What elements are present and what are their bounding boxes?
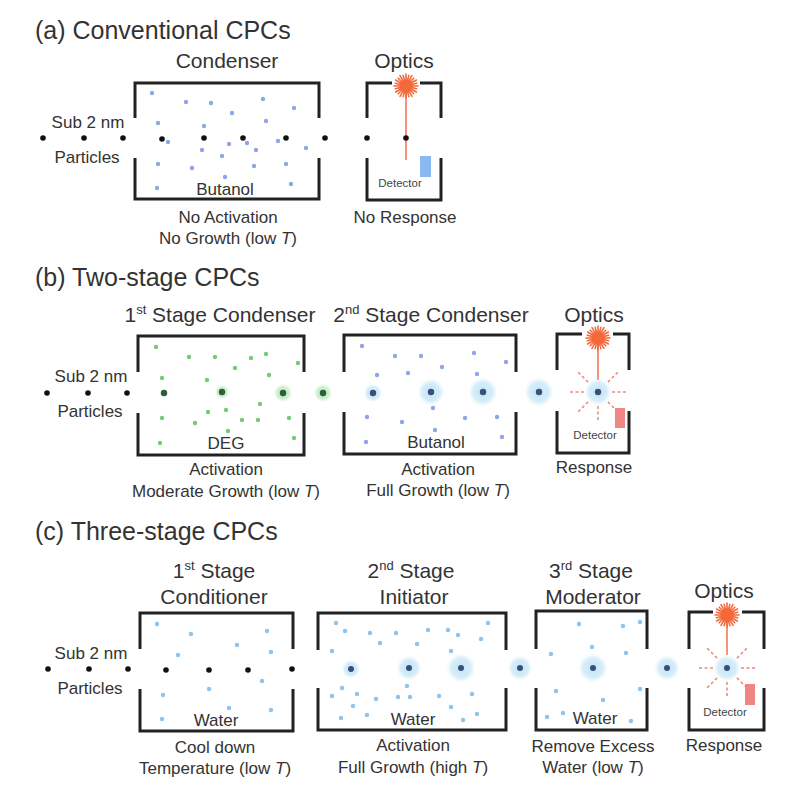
deg-grown-particle (320, 390, 326, 396)
butanol-droplet (245, 141, 249, 145)
bare-particle (322, 135, 328, 141)
stage1-result-line2: Moderate Growth (low T) (132, 482, 320, 501)
water-droplet (621, 624, 625, 628)
water-droplet (405, 684, 409, 688)
water-droplet (340, 686, 344, 690)
butanol-droplet (375, 373, 379, 377)
water-droplet (629, 719, 633, 723)
water-droplet (269, 650, 273, 654)
stage3-result-line2: Water (low T) (542, 758, 643, 777)
water-droplet (624, 651, 628, 655)
panel-c-three-stage-cpc: (c) Three-stage CPCs 1st Stage Condition… (35, 517, 764, 778)
condenser-result-line2: No Growth (low T) (159, 229, 297, 248)
water-droplet (155, 622, 159, 626)
water-droplet (161, 693, 165, 697)
stage2-label: 2nd Stage (368, 558, 455, 582)
water-droplet (334, 621, 338, 625)
water-droplet (330, 649, 334, 653)
particle-stream-butanol (364, 378, 611, 406)
butanol-droplet (261, 97, 265, 101)
deg-droplet (249, 356, 253, 360)
panel-b-two-stage-cpc: (b) Two-stage CPCs 1st Stage Condenser 2… (35, 263, 632, 501)
water-droplet (479, 637, 483, 641)
butanol-droplet (209, 101, 213, 105)
butanol-droplet (475, 372, 479, 376)
bare-particle (283, 135, 289, 141)
detector-icon-active (615, 408, 625, 428)
detector-label: Detector (703, 706, 747, 718)
water-grown-particle (590, 665, 596, 671)
water-droplet (368, 631, 372, 635)
butanol-droplet (202, 124, 206, 128)
stage2-result-line2: Full Growth (high T) (338, 758, 488, 777)
butanol-droplet (463, 416, 467, 420)
water-droplet (456, 633, 460, 637)
stage1-label: 1st Stage (173, 558, 256, 582)
stage2-result-line1: Activation (401, 460, 475, 479)
stage1-fluid-label: Water (194, 711, 239, 730)
water-droplet (343, 629, 347, 633)
condenser-label: Condenser (176, 49, 279, 72)
laser-icon (394, 74, 418, 98)
inlet-label-size: Sub 2 nm (52, 113, 125, 132)
butanol-grown-particle (536, 389, 542, 395)
deg-droplet (154, 345, 158, 349)
bare-particle (206, 667, 212, 673)
panel-a-conventional-cpc: (a) Conventional CPCs Condenser Optics S… (35, 16, 457, 248)
water-droplet (561, 711, 565, 715)
butanol-grown-particle (428, 389, 434, 395)
water-droplet (374, 697, 378, 701)
bare-particle (124, 390, 130, 396)
condenser-fluid-label: Butanol (196, 180, 254, 199)
deg-droplet (292, 436, 296, 440)
particle-stream-bare (45, 666, 295, 673)
deg-droplet (226, 429, 230, 433)
butanol-droplet (472, 351, 476, 355)
water-droplet (408, 695, 412, 699)
detector-icon-inactive (420, 156, 431, 177)
bare-particle (86, 666, 92, 672)
water-droplet (449, 705, 453, 709)
deg-droplet (256, 418, 260, 422)
bare-particle (159, 136, 165, 142)
water-grown-particle (458, 665, 464, 671)
bare-particle (120, 135, 126, 141)
butanol-droplet (276, 139, 280, 143)
water-droplet (235, 643, 239, 647)
optics-label: Optics (374, 49, 434, 72)
water-droplets (155, 622, 273, 721)
stage2-fluid-label: Water (391, 710, 436, 729)
laser-icon (715, 603, 739, 627)
stage3-fluid-label: Water (573, 709, 618, 728)
water-droplet (160, 717, 164, 721)
bare-particle (364, 135, 370, 141)
optics-label: Optics (694, 579, 754, 602)
butanol-droplet (289, 182, 293, 186)
water-droplet (207, 687, 211, 691)
butanol-droplet (393, 354, 397, 358)
stage2-label-line2: Initiator (380, 585, 449, 608)
optics-label: Optics (564, 303, 624, 326)
water-droplet (638, 620, 642, 624)
water-droplet (227, 706, 231, 710)
particle-stream-bare (44, 390, 130, 396)
inlet-label-particles: Particles (57, 679, 122, 698)
butanol-droplet (292, 106, 296, 110)
butanol-droplet (419, 354, 423, 358)
water-grown-particle (664, 665, 670, 671)
bare-particle (85, 390, 91, 396)
deg-droplet (158, 441, 162, 445)
water-droplet (461, 718, 465, 722)
butanol-grown-particle (370, 390, 376, 396)
stage1-fluid-label: DEG (208, 434, 245, 453)
water-grown-particle (348, 666, 354, 672)
water-droplet (446, 628, 450, 632)
butanol-droplet (284, 162, 288, 166)
detector-label: Detector (573, 429, 617, 441)
stage2-result-line2: Full Growth (low T) (366, 481, 510, 500)
butanol-droplet (252, 164, 256, 168)
stage1-label: 1st Stage Condenser (124, 302, 315, 326)
butanol-droplet (495, 415, 499, 419)
deg-droplet (187, 355, 191, 359)
particle-stream-water (342, 654, 740, 682)
